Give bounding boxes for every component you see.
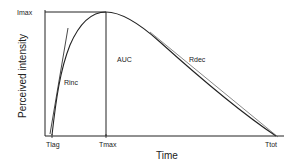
tmax-label: Tmax: [99, 141, 117, 148]
ttot-label: Ttot: [265, 141, 277, 148]
chart-plot-area: [0, 0, 299, 168]
time-intensity-chart: Imax Tlag Tmax Ttot Rinc AUC Rdec Time P…: [0, 0, 299, 168]
y-axis-title: Perceived intensity: [18, 34, 28, 118]
intensity-curve: [52, 12, 276, 136]
tlag-label: Tlag: [46, 141, 60, 148]
rinc-label: Rinc: [64, 79, 78, 86]
auc-label: AUC: [117, 56, 132, 63]
rdec-tangent-line: [150, 32, 278, 137]
x-axis-title: Time: [156, 151, 178, 161]
imax-label: Imax: [17, 9, 32, 16]
rdec-label: Rdec: [189, 56, 205, 63]
